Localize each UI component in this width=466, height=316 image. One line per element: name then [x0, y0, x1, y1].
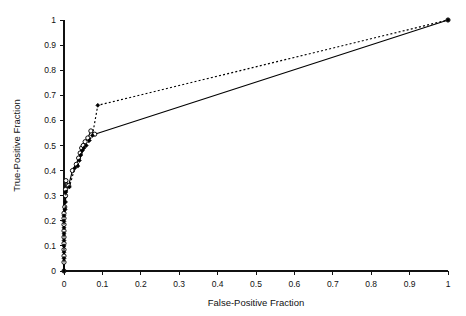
y-tick-label: 1 [51, 15, 56, 25]
roc-chart: 00.10.20.30.40.50.60.70.80.9100.10.20.30… [0, 0, 466, 316]
y-tick-label: 0.3 [44, 191, 56, 201]
data-point-marker [64, 179, 68, 183]
x-tick-label: 0.9 [404, 279, 416, 289]
y-tick-label: 0.7 [44, 90, 56, 100]
x-tick-label: 1 [446, 279, 451, 289]
x-tick-label: 0 [62, 279, 67, 289]
x-tick-label: 0.7 [327, 279, 339, 289]
y-tick-label: 0.9 [44, 40, 56, 50]
x-tick-label: 0.5 [250, 279, 262, 289]
y-tick-label: 0.6 [44, 115, 56, 125]
y-tick-label: 0.2 [44, 216, 56, 226]
y-tick-label: 0.5 [44, 141, 56, 151]
y-tick-label: 0 [51, 266, 56, 276]
data-point-marker [96, 103, 100, 107]
data-point-marker [83, 140, 87, 144]
x-tick-label: 0.1 [96, 279, 108, 289]
series-line-1 [64, 20, 448, 271]
series-markers-2 [62, 18, 450, 273]
data-point-marker [89, 129, 93, 133]
y-axis-title: True-Positive Fraction [11, 99, 22, 192]
series-line-2 [64, 20, 448, 271]
x-tick-label: 0.4 [212, 279, 224, 289]
y-tick-label: 0.8 [44, 65, 56, 75]
x-tick-label: 0.6 [288, 279, 300, 289]
y-tick-label: 0.4 [44, 166, 56, 176]
x-tick-label: 0.2 [135, 279, 147, 289]
y-tick-label: 0.1 [44, 241, 56, 251]
x-tick-label: 0.8 [365, 279, 377, 289]
x-tick-label: 0.3 [173, 279, 185, 289]
x-axis-title: False-Positive Fraction [208, 297, 305, 308]
roc-plot-svg: 00.10.20.30.40.50.60.70.80.9100.10.20.30… [0, 0, 466, 316]
series-markers-1 [62, 18, 450, 273]
